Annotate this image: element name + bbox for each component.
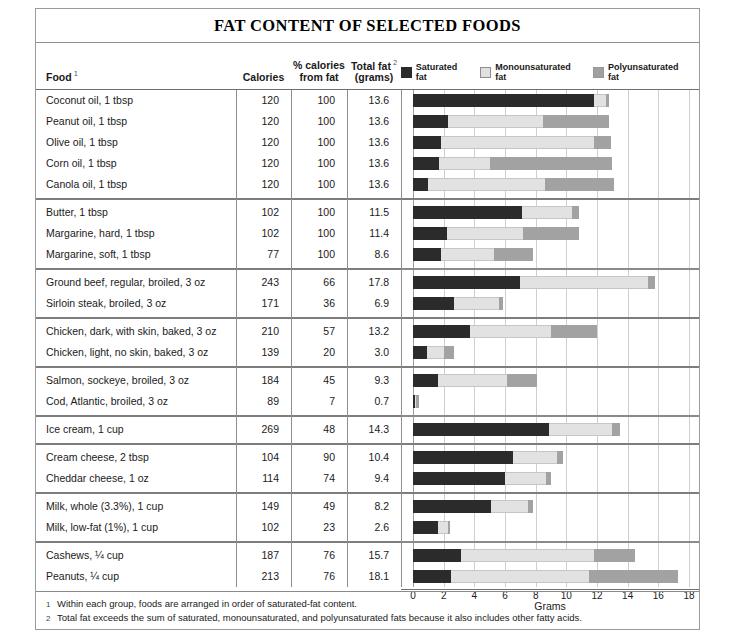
bar-segment-mono [454, 297, 498, 310]
cell-total-fat-grams: 13.2 [347, 321, 401, 342]
column-divider [236, 90, 237, 587]
bar-segment-sat [413, 136, 441, 149]
bar-plot-cell [401, 174, 699, 195]
table-row: Chicken, dark, with skin, baked, 3 oz210… [36, 321, 699, 342]
table-row: Canola oil, 1 tbsp12010013.6 [36, 174, 699, 195]
footnote-text: Total fat exceeds the sum of saturated, … [57, 611, 582, 625]
bar-segment-poly [648, 276, 656, 289]
table-row: Chicken, light, no skin, baked, 3 oz1392… [36, 342, 699, 363]
cell-calories: 120 [236, 174, 291, 195]
cell-food-name: Cod, Atlantic, broiled, 3 oz [36, 391, 236, 412]
page-title: FAT CONTENT OF SELECTED FOODS [214, 16, 521, 36]
cell-total-fat-grams: 13.6 [347, 153, 401, 174]
cell-calories: 187 [236, 545, 291, 566]
cell-calories: 120 [236, 111, 291, 132]
cell-calories: 171 [236, 293, 291, 314]
cell-calories: 139 [236, 342, 291, 363]
cell-total-fat-grams: 11.4 [347, 223, 401, 244]
cell-food-name: Butter, 1 tbsp [36, 202, 236, 223]
column-header-pct-calories-from-fat: % calories from fat [291, 60, 347, 83]
bar-segment-mono [447, 227, 524, 240]
table-body: Coconut oil, 1 tbsp12010013.6Peanut oil,… [36, 89, 699, 587]
cell-calories: 77 [236, 244, 291, 265]
table-row: Cashews, ¼ cup1877615.7 [36, 545, 699, 566]
legend-label: Saturated fat [416, 62, 470, 82]
cell-total-fat-grams: 3.0 [347, 342, 401, 363]
cell-calories: 120 [236, 132, 291, 153]
sat-swatch-icon [401, 67, 412, 78]
footnotes: 1Within each group, foods are arranged i… [36, 591, 699, 629]
bar-plot-cell [401, 202, 699, 223]
bar-segment-poly [612, 423, 620, 436]
cell-total-fat-grams: 13.6 [347, 90, 401, 111]
bar-segment-mono [439, 157, 490, 170]
table-row: Olive oil, 1 tbsp12010013.6 [36, 132, 699, 153]
cell-pct-calories-from-fat: 76 [291, 566, 347, 587]
table-row: Ground beef, regular, broiled, 3 oz24366… [36, 272, 699, 293]
stacked-bar [413, 395, 419, 408]
bar-segment-poly [448, 521, 450, 534]
column-divider [401, 90, 402, 587]
cell-calories: 89 [236, 391, 291, 412]
bar-plot-cell [401, 517, 699, 538]
group-separator [36, 489, 699, 496]
bar-segment-sat [413, 374, 438, 387]
cell-calories: 149 [236, 496, 291, 517]
bar-segment-poly [543, 115, 609, 128]
bar-plot-cell [401, 293, 699, 314]
bar-segment-poly [499, 297, 504, 310]
table-row: Sirloin steak, broiled, 3 oz171366.9 [36, 293, 699, 314]
cell-total-fat-grams: 17.8 [347, 272, 401, 293]
bar-segment-mono [427, 346, 444, 359]
cell-total-fat-grams: 13.6 [347, 111, 401, 132]
cell-food-name: Ground beef, regular, broiled, 3 oz [36, 272, 236, 293]
table-row: Margarine, hard, 1 tbsp10210011.4 [36, 223, 699, 244]
cell-pct-calories-from-fat: 7 [291, 391, 347, 412]
cell-pct-calories-from-fat: 76 [291, 545, 347, 566]
stacked-bar [413, 374, 537, 387]
column-header-food: Food1 [36, 68, 236, 83]
stacked-bar [413, 423, 620, 436]
footnote-marker: 1 [46, 597, 57, 611]
footnote-marker-2: 2 [393, 58, 397, 67]
cell-pct-calories-from-fat: 100 [291, 223, 347, 244]
cell-food-name: Milk, whole (3.3%), 1 cup [36, 496, 236, 517]
cell-food-name: Margarine, hard, 1 tbsp [36, 223, 236, 244]
bar-plot-cell [401, 468, 699, 489]
group-separator [36, 440, 699, 447]
bar-segment-sat [413, 227, 447, 240]
bar-plot-cell [401, 566, 699, 587]
cell-pct-calories-from-fat: 48 [291, 419, 347, 440]
stacked-bar [413, 157, 612, 170]
cell-food-name: Canola oil, 1 tbsp [36, 174, 236, 195]
stacked-bar [413, 500, 533, 513]
bar-plot-cell [401, 111, 699, 132]
cell-total-fat-grams: 18.1 [347, 566, 401, 587]
bar-plot-cell [401, 244, 699, 265]
stacked-bar [413, 570, 678, 583]
cell-calories: 243 [236, 272, 291, 293]
stacked-bar [413, 115, 609, 128]
table-row: Peanuts, ¼ cup2137618.1 [36, 566, 699, 587]
poly-swatch-icon [593, 67, 604, 78]
stacked-bar [413, 346, 454, 359]
bar-segment-sat [413, 115, 448, 128]
legend-item-poly: Polyunsaturated fat [593, 62, 690, 82]
cell-calories: 120 [236, 153, 291, 174]
table-row: Coconut oil, 1 tbsp12010013.6 [36, 90, 699, 111]
cell-food-name: Olive oil, 1 tbsp [36, 132, 236, 153]
chart-legend: Saturated fatMonounsaturated fatPolyunsa… [401, 62, 701, 82]
cell-calories: 120 [236, 90, 291, 111]
bar-plot-cell [401, 342, 699, 363]
bar-segment-sat [413, 206, 522, 219]
stacked-bar [413, 206, 579, 219]
cell-food-name: Chicken, light, no skin, baked, 3 oz [36, 342, 236, 363]
stacked-bar [413, 325, 597, 338]
table-row: Cream cheese, 2 tbsp1049010.4 [36, 447, 699, 468]
cell-pct-calories-from-fat: 100 [291, 202, 347, 223]
bar-segment-sat [413, 570, 451, 583]
cell-calories: 104 [236, 447, 291, 468]
cell-total-fat-grams: 11.5 [347, 202, 401, 223]
table-row: Cheddar cheese, 1 oz114749.4 [36, 468, 699, 489]
bar-segment-poly [545, 178, 614, 191]
